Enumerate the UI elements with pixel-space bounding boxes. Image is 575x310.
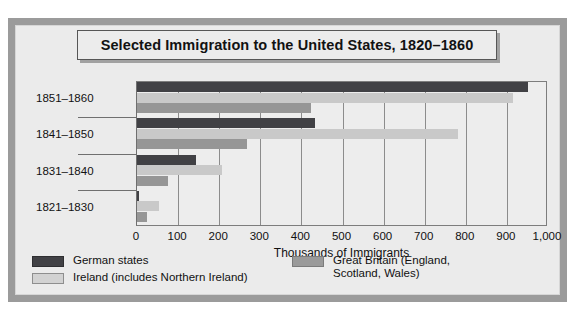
x-tick-label: 800 — [455, 230, 474, 242]
bar-german — [137, 118, 315, 128]
chart-title-plaque: Selected Immigration to the United State… — [77, 30, 497, 60]
legend-swatch-ireland-icon — [32, 273, 64, 284]
bar-britain — [137, 212, 147, 222]
legend-label-ireland: Ireland (includes Northern Ireland) — [73, 271, 248, 284]
x-tick-label: 300 — [250, 230, 269, 242]
legend-item-britain: Great Britain (England, Scotland, Wales) — [292, 254, 450, 280]
chart-figure-frame: Selected Immigration to the United State… — [8, 18, 567, 302]
category-separator — [78, 190, 137, 191]
bar-german — [137, 155, 196, 165]
gridline — [466, 82, 467, 225]
gridline — [343, 82, 344, 225]
legend-column-left: German states Ireland (includes Northern… — [32, 254, 248, 288]
gridline — [507, 82, 508, 225]
bar-ireland — [137, 129, 458, 139]
x-tick-label: 400 — [291, 230, 310, 242]
x-tick-label: 1,000 — [533, 230, 562, 242]
gridline — [425, 82, 426, 225]
bar-german — [137, 82, 528, 92]
legend-item-german: German states — [32, 254, 248, 267]
legend-swatch-german-icon — [32, 256, 64, 267]
category-label: 1831–1840 — [36, 165, 132, 177]
x-tick-label: 100 — [168, 230, 187, 242]
category-label: 1851–1860 — [36, 92, 132, 104]
legend-swatch-britain-icon — [292, 256, 324, 267]
category-separator — [78, 117, 137, 118]
bar-german — [137, 191, 139, 201]
bar-britain — [137, 176, 168, 186]
chart-legend: German states Ireland (includes Northern… — [24, 254, 551, 294]
gridline — [384, 82, 385, 225]
x-tick-label: 600 — [373, 230, 392, 242]
bar-ireland — [137, 201, 159, 211]
legend-label-german: German states — [73, 254, 148, 267]
bar-britain — [137, 139, 247, 149]
legend-item-ireland: Ireland (includes Northern Ireland) — [32, 271, 248, 284]
page-title: Selected Immigration to the United State… — [101, 37, 474, 53]
x-tick-label: 500 — [332, 230, 351, 242]
category-label: 1841–1850 — [36, 128, 132, 140]
category-separator — [78, 154, 137, 155]
x-tick-label: 200 — [209, 230, 228, 242]
x-tick-label: 700 — [414, 230, 433, 242]
x-tick-label: 900 — [496, 230, 515, 242]
chart-panel: Selected Immigration to the United State… — [15, 25, 560, 295]
plot-region: 1851–18601841–18501831–18401821–1830 010… — [16, 64, 559, 264]
legend-label-britain: Great Britain (England, Scotland, Wales) — [333, 254, 450, 280]
bar-ireland — [137, 93, 513, 103]
bar-ireland — [137, 165, 222, 175]
x-tick-label: 0 — [133, 230, 139, 242]
bar-britain — [137, 103, 311, 113]
category-label: 1821–1830 — [36, 201, 132, 213]
legend-column-right: Great Britain (England, Scotland, Wales) — [292, 254, 450, 284]
